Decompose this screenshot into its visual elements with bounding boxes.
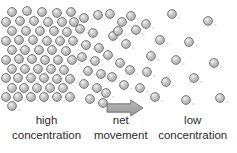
- particle: [2, 93, 15, 102]
- particle: [14, 74, 27, 83]
- particle: [27, 74, 40, 83]
- high-concentration-region: [2, 7, 83, 111]
- particle: [162, 78, 175, 87]
- particle: [15, 55, 28, 64]
- particle: [16, 17, 29, 26]
- particle: [21, 46, 34, 55]
- particle: [50, 27, 63, 36]
- particle: [53, 9, 66, 18]
- label-row: high concentration net movement low conc…: [0, 113, 237, 153]
- particle: [80, 14, 93, 23]
- diffusion-diagram: high concentration net movement low conc…: [0, 0, 237, 153]
- particle: [108, 73, 121, 82]
- particle: [80, 80, 93, 89]
- particle: [76, 25, 89, 34]
- particle: [53, 75, 66, 84]
- particle: [122, 40, 135, 49]
- particle: [14, 93, 27, 102]
- transition-region: [76, 10, 140, 108]
- particle: [172, 56, 185, 65]
- particle: [84, 67, 97, 76]
- particle: [29, 36, 42, 45]
- particle: [38, 8, 51, 17]
- particle: [116, 59, 129, 68]
- label-high-concentration: high concentration: [0, 113, 93, 143]
- particle: [35, 46, 48, 55]
- particle: [216, 94, 229, 103]
- particle: [120, 81, 133, 90]
- particle: [66, 75, 79, 84]
- particle: [15, 36, 28, 45]
- particle: [60, 66, 73, 75]
- particle: [156, 36, 169, 45]
- particle: [2, 18, 15, 27]
- particle: [40, 74, 53, 83]
- particle: [69, 37, 82, 46]
- particle: [44, 18, 57, 27]
- particle: [58, 18, 71, 27]
- label-high-line2: concentration: [12, 128, 81, 143]
- particle: [102, 89, 115, 98]
- particle: [8, 46, 21, 55]
- particle: [78, 53, 91, 62]
- particle: [151, 93, 164, 102]
- low-concentration-region: [132, 10, 229, 105]
- particle: [8, 84, 21, 93]
- particle: [33, 84, 46, 93]
- particle: [185, 38, 198, 47]
- particle: [28, 55, 41, 64]
- particle: [86, 95, 99, 104]
- particle: [41, 56, 54, 65]
- label-net-line2: movement: [94, 128, 148, 143]
- particle: [126, 66, 139, 75]
- particle: [114, 27, 127, 36]
- particle: [8, 8, 21, 17]
- particle: [94, 11, 107, 20]
- particle: [2, 37, 15, 46]
- particle: [106, 10, 119, 19]
- label-net-line1: net: [113, 113, 129, 128]
- particle: [8, 102, 21, 111]
- particle: [104, 51, 117, 60]
- label-low-line1: low: [184, 113, 201, 128]
- particle: [63, 28, 76, 37]
- particle: [91, 57, 104, 66]
- particle: [43, 37, 56, 46]
- particle: [59, 84, 72, 93]
- particle: [56, 37, 69, 46]
- particle: [182, 96, 195, 105]
- particle: [34, 65, 47, 74]
- particle: [22, 27, 35, 36]
- particle: [46, 84, 59, 93]
- label-low-concentration: low concentration: [148, 113, 237, 143]
- particle: [62, 47, 75, 56]
- particle: [2, 56, 15, 65]
- particle: [40, 93, 53, 102]
- label-net-movement: net movement: [93, 113, 148, 143]
- label-low-line2: concentration: [158, 128, 227, 143]
- particle: [23, 7, 36, 16]
- particle: [142, 20, 155, 29]
- particle: [67, 8, 80, 17]
- particle: [8, 65, 21, 74]
- particle: [21, 65, 34, 74]
- particle: [2, 74, 15, 83]
- particle: [82, 41, 95, 50]
- particle: [136, 84, 149, 93]
- particle: [66, 93, 79, 102]
- particle: [147, 52, 160, 61]
- particle: [54, 56, 67, 65]
- particle: [127, 12, 140, 21]
- particle: [20, 84, 33, 93]
- particle: [8, 27, 21, 36]
- particle: [27, 93, 40, 102]
- particle: [143, 68, 156, 77]
- particle: [89, 29, 102, 38]
- particle: [30, 17, 43, 26]
- particle: [210, 59, 223, 68]
- particles-layer: [2, 7, 229, 111]
- particle: [48, 46, 61, 55]
- label-high-line1: high: [36, 113, 58, 128]
- particle: [168, 10, 181, 19]
- particle: [47, 65, 60, 74]
